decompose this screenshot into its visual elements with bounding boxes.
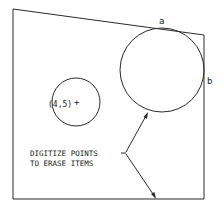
boundary-polygon xyxy=(13,9,204,199)
instruction-line-2: TO ERASE ITEMS xyxy=(30,159,94,168)
crosshair-cursor-icon: + xyxy=(74,97,80,107)
point-b-label: b xyxy=(207,76,212,86)
instruction-line-1: DIGITIZE POINTS xyxy=(30,149,98,158)
large-circle xyxy=(120,28,204,112)
arrow-to-large-circle xyxy=(126,112,148,152)
coordinate-label: (4,5) xyxy=(48,100,72,109)
arrow-to-bottom-edge xyxy=(126,154,156,199)
diagram-canvas: a b (4,5) + DIGITIZE POINTS TO ERASE ITE… xyxy=(0,0,223,212)
point-a-label: a xyxy=(159,16,164,26)
